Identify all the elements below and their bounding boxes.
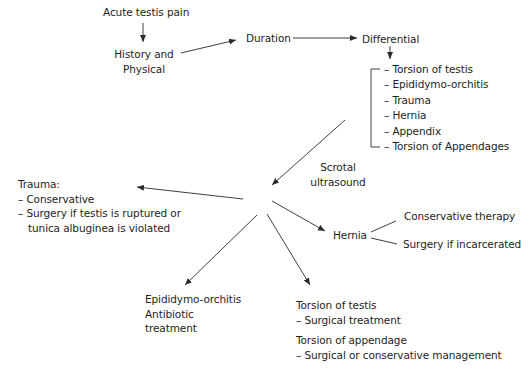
epididymo-line-2: Antibiotic bbox=[145, 307, 241, 322]
differential-item: – Epididymo-orchitis bbox=[372, 77, 509, 92]
epididymo-line-3: treatment bbox=[145, 321, 241, 336]
line-hernia-to-conservative bbox=[371, 221, 396, 232]
epididymo-line-1: Epididymo-orchitis bbox=[145, 292, 241, 307]
torsion-appendage-line-1: – Surgical or conservative management bbox=[296, 348, 502, 363]
node-acute-testis-pain: Acute testis pain bbox=[103, 5, 185, 20]
differential-item: – Trauma bbox=[372, 93, 509, 108]
node-differential: Differential bbox=[362, 32, 419, 47]
torsion-appendage-title: Torsion of appendage bbox=[296, 333, 502, 348]
node-duration: Duration bbox=[246, 31, 291, 46]
ultrasound-line-1: Scrotal bbox=[308, 160, 368, 175]
node-hernia: Hernia bbox=[333, 228, 367, 243]
arrow-hub-to-hernia bbox=[272, 201, 325, 231]
node-torsion-testis: Torsion of testis – Surgical treatment bbox=[296, 298, 401, 327]
hernia-option-surgery: Surgery if incarcerated bbox=[403, 237, 521, 252]
differential-item: – Hernia bbox=[372, 108, 509, 123]
node-scrotal-ultrasound: Scrotal ultrasound bbox=[308, 160, 368, 189]
differential-item: – Torsion of testis bbox=[372, 62, 509, 77]
ultrasound-line-2: ultrasound bbox=[308, 175, 368, 190]
hernia-option-conservative: Conservative therapy bbox=[404, 209, 515, 224]
differential-item: – Appendix bbox=[372, 124, 509, 139]
node-history-physical: History and Physical bbox=[110, 47, 178, 76]
differential-list: – Torsion of testis – Epididymo-orchitis… bbox=[372, 62, 509, 154]
trauma-line-2: – Surgery if testis is ruptured or bbox=[18, 206, 181, 221]
arrow-hub-to-torsion bbox=[267, 214, 310, 285]
trauma-title: Trauma: bbox=[18, 177, 181, 192]
trauma-line-3: tunica albuginea is violated bbox=[18, 221, 181, 236]
node-torsion-appendage: Torsion of appendage – Surgical or conse… bbox=[296, 333, 502, 362]
differential-item: – Torsion of Appendages bbox=[372, 139, 509, 154]
node-epididymo-orchitis: Epididymo-orchitis Antibiotic treatment bbox=[145, 292, 241, 336]
history-line-2: Physical bbox=[110, 62, 178, 77]
arrow-history-to-duration bbox=[181, 40, 236, 53]
torsion-testis-title: Torsion of testis bbox=[296, 298, 401, 313]
torsion-testis-line-1: – Surgical treatment bbox=[296, 313, 401, 328]
arrow-hub-to-epididymo bbox=[185, 215, 257, 285]
history-line-1: History and bbox=[110, 47, 178, 62]
trauma-line-1: – Conservative bbox=[18, 192, 181, 207]
line-hernia-to-surgery bbox=[371, 238, 397, 244]
node-trauma: Trauma: – Conservative – Surgery if test… bbox=[18, 177, 181, 235]
